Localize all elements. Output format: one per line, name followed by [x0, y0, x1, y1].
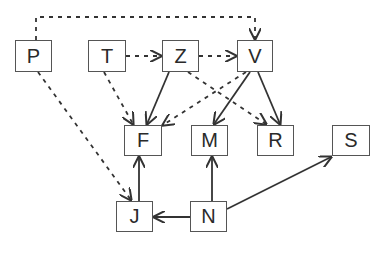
node-z: Z — [162, 40, 199, 72]
edge-z-f — [147, 72, 169, 124]
edge-t-f — [104, 72, 133, 124]
node-j: J — [116, 201, 153, 232]
edge-v-r — [258, 72, 280, 124]
node-label: N — [201, 205, 215, 228]
node-m: M — [191, 125, 228, 156]
edge-v-m — [214, 72, 250, 124]
node-label: F — [137, 129, 149, 152]
node-label: Z — [174, 45, 186, 68]
edge-v-f — [163, 72, 246, 125]
node-f: F — [124, 125, 162, 156]
edge-z-r — [188, 72, 266, 124]
node-label: T — [101, 45, 113, 68]
node-label: M — [201, 129, 218, 152]
node-label: R — [268, 129, 282, 152]
edge-p-v — [36, 17, 255, 40]
node-t: T — [88, 40, 126, 72]
edge-p-j — [38, 72, 131, 200]
node-label: S — [344, 129, 357, 152]
edge-n-s — [227, 157, 331, 209]
node-p: P — [15, 40, 52, 72]
node-n: N — [190, 201, 227, 232]
node-v: V — [237, 40, 273, 72]
node-label: J — [130, 205, 140, 228]
node-label: P — [27, 45, 40, 68]
node-r: R — [257, 125, 294, 156]
node-label: V — [248, 45, 261, 68]
node-s: S — [332, 125, 370, 156]
